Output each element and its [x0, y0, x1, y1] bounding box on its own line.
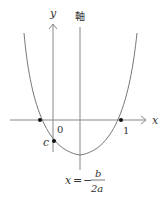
axis-of-symmetry-label: 軸 [75, 10, 85, 22]
intercept-label: c [43, 136, 49, 149]
formula-denominator: 2a [90, 183, 103, 194]
parabola-diagram: y 軸 x 0 1 c x = − b 2a [0, 0, 164, 201]
vertex-formula: x = − b 2a [65, 168, 105, 194]
origin-label: 0 [57, 124, 63, 135]
y-axis-label: y [49, 7, 57, 20]
root-right-point [119, 118, 123, 122]
formula-lhs: x [65, 174, 72, 187]
root-right-label: 1 [123, 125, 129, 136]
formula-equals: = [73, 174, 82, 187]
formula-numerator: b [95, 168, 101, 179]
root-left-point [38, 118, 42, 122]
intercept-c-point [52, 139, 56, 143]
x-axis-label: x [152, 114, 159, 127]
